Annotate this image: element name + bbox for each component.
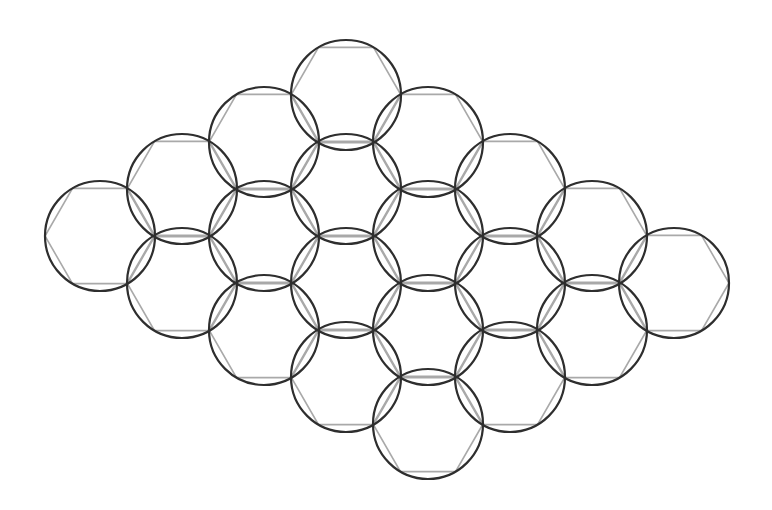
hexagon-shape <box>537 282 647 377</box>
hexagon-shape <box>291 47 401 142</box>
hexagon-shape <box>127 141 237 236</box>
hexagon-circle-lattice-diagram <box>0 0 772 510</box>
hexagon-shape <box>373 376 483 471</box>
hexagon-shape <box>209 282 319 377</box>
circle-shape <box>619 228 729 338</box>
hexagon-shape <box>291 141 401 236</box>
hexagon-shape <box>537 188 647 283</box>
circle-shape <box>45 181 155 291</box>
hexagon-shape <box>455 141 565 236</box>
hexagon-shape <box>455 235 565 330</box>
hexagon-shape <box>291 235 401 330</box>
hexagon-shape <box>209 188 319 283</box>
hexagon-shape <box>127 235 237 330</box>
hexagon-shape <box>45 188 155 283</box>
hexagon-shape <box>373 94 483 189</box>
hexagon-shape <box>619 235 729 330</box>
hexagon-shape <box>291 329 401 424</box>
inscribed-hexagons-layer <box>45 47 729 471</box>
hexagon-shape <box>209 94 319 189</box>
hexagon-shape <box>373 188 483 283</box>
hexagon-shape <box>373 282 483 377</box>
hexagon-shape <box>455 329 565 424</box>
